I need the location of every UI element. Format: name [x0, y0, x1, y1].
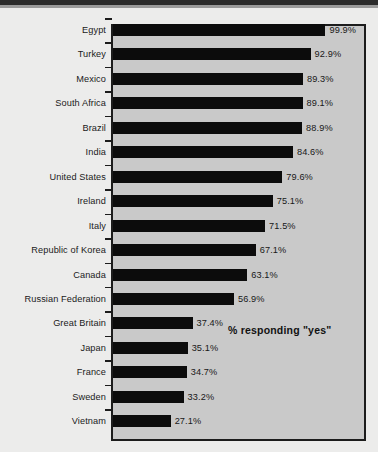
axis-tick: [105, 385, 112, 387]
bar-row: India84.6%: [0, 140, 378, 164]
bar-value-label: 56.9%: [238, 287, 265, 311]
bar-value-label: 37.4%: [197, 311, 224, 335]
bar-row: Canada63.1%: [0, 263, 378, 287]
chart-annotation: % responding "yes": [228, 324, 331, 336]
bar: [113, 244, 256, 256]
category-label: Sweden: [0, 385, 106, 409]
axis-tick: [105, 116, 112, 118]
bar-row: Japan35.1%: [0, 336, 378, 360]
axis-tick: [105, 140, 112, 142]
axis-tick: [105, 214, 112, 216]
chart-page: Egypt99.9%Turkey92.9%Mexico89.3%South Af…: [0, 0, 378, 452]
bar-row: Turkey92.9%: [0, 42, 378, 66]
category-label: South Africa: [0, 91, 106, 115]
axis-tick: [105, 18, 112, 20]
bar-row: Republic of Korea67.1%: [0, 238, 378, 262]
bar: [113, 220, 265, 232]
bar-row: Mexico89.3%: [0, 67, 378, 91]
axis-tick: [105, 165, 112, 167]
category-label: Turkey: [0, 42, 106, 66]
bar: [113, 415, 171, 427]
bar-row: Russian Federation56.9%: [0, 287, 378, 311]
category-label: Republic of Korea: [0, 238, 106, 262]
category-label: France: [0, 360, 106, 384]
bar: [113, 366, 187, 378]
category-label: Mexico: [0, 67, 106, 91]
axis-tick: [105, 67, 112, 69]
bar-row: United States79.6%: [0, 165, 378, 189]
bar-row: Ireland75.1%: [0, 189, 378, 213]
bar-value-label: 92.9%: [315, 42, 342, 66]
bar: [113, 122, 302, 134]
bar-value-label: 79.6%: [286, 165, 313, 189]
bar-value-label: 67.1%: [260, 238, 287, 262]
bar: [113, 195, 273, 207]
bar-value-label: 75.1%: [277, 189, 304, 213]
category-label: Italy: [0, 214, 106, 238]
bar-row: Italy71.5%: [0, 214, 378, 238]
bar-row: Vietnam27.1%: [0, 409, 378, 433]
category-label: Canada: [0, 263, 106, 287]
bar-value-label: 27.1%: [175, 409, 202, 433]
bar-value-label: 33.2%: [188, 385, 215, 409]
bar-value-label: 35.1%: [192, 336, 219, 360]
bar: [113, 293, 234, 305]
category-label: Vietnam: [0, 409, 106, 433]
category-label: Japan: [0, 336, 106, 360]
bar-value-label: 84.6%: [297, 140, 324, 164]
bar-value-label: 34.7%: [191, 360, 218, 384]
bar-value-label: 71.5%: [269, 214, 296, 238]
bar: [113, 317, 193, 329]
axis-tick: [105, 360, 112, 362]
bar: [113, 48, 311, 60]
category-label: Brazil: [0, 116, 106, 140]
bar-value-label: 89.3%: [307, 67, 334, 91]
category-label: United States: [0, 165, 106, 189]
axis-tick: [105, 336, 112, 338]
bar-row: France34.7%: [0, 360, 378, 384]
bar: [113, 97, 303, 109]
bar-row: Sweden33.2%: [0, 385, 378, 409]
bar-value-label: 99.9%: [329, 18, 356, 42]
bar-value-label: 88.9%: [306, 116, 333, 140]
bar-value-label: 63.1%: [251, 263, 278, 287]
bar: [113, 269, 247, 281]
bar: [113, 73, 303, 85]
bar: [113, 342, 188, 354]
axis-tick: [105, 409, 112, 411]
category-label: Great Britain: [0, 311, 106, 335]
bar-value-label: 89.1%: [307, 91, 334, 115]
chart-paper: Egypt99.9%Turkey92.9%Mexico89.3%South Af…: [0, 8, 378, 452]
category-label: Ireland: [0, 189, 106, 213]
category-label: India: [0, 140, 106, 164]
axis-tick: [105, 238, 112, 240]
axis-tick: [105, 42, 112, 44]
bar-row: Egypt99.9%: [0, 18, 378, 42]
bar: [113, 24, 325, 36]
axis-tick: [105, 263, 112, 265]
bar: [113, 391, 184, 403]
bar-row: South Africa89.1%: [0, 91, 378, 115]
axis-tick: [105, 91, 112, 93]
axis-tick: [105, 287, 112, 289]
category-label: Russian Federation: [0, 287, 106, 311]
bar: [113, 146, 293, 158]
bar-row: Brazil88.9%: [0, 116, 378, 140]
axis-tick: [105, 311, 112, 313]
category-label: Egypt: [0, 18, 106, 42]
bar: [113, 171, 282, 183]
axis-tick: [105, 189, 112, 191]
